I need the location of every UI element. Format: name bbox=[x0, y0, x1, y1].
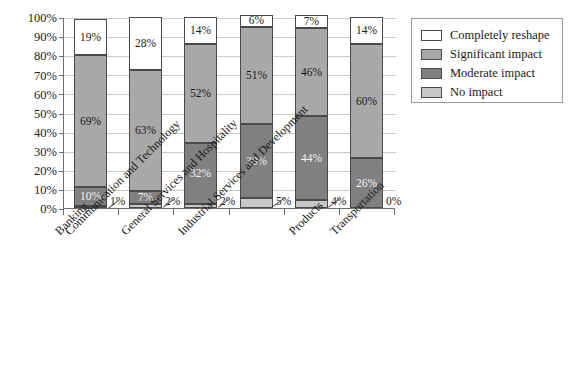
gridline bbox=[64, 18, 396, 19]
y-tick-label: 70% bbox=[3, 70, 57, 82]
segment-value: 44% bbox=[301, 153, 322, 164]
y-tick bbox=[59, 94, 64, 95]
segment-significant-impact: 60% bbox=[350, 44, 383, 159]
y-tick-label: 90% bbox=[3, 31, 57, 43]
y-tick-label: 0% bbox=[3, 203, 57, 215]
y-tick bbox=[59, 56, 64, 57]
legend-item-completely-reshape: Completely reshape bbox=[421, 26, 562, 45]
legend-swatch-icon bbox=[421, 87, 442, 98]
segment-value: 14% bbox=[190, 25, 211, 36]
y-tick bbox=[59, 114, 64, 115]
legend-swatch-icon bbox=[421, 49, 442, 60]
segment-completely-reshape: 14% bbox=[184, 17, 217, 44]
y-tick bbox=[59, 171, 64, 172]
segment-significant-impact: 69% bbox=[74, 55, 107, 187]
segment-value: 51% bbox=[246, 70, 267, 81]
legend-swatch-icon bbox=[421, 68, 442, 79]
legend-item-significant-impact: Significant impact bbox=[421, 45, 562, 64]
legend-label: Moderate impact bbox=[450, 66, 535, 81]
segment-completely-reshape: 19% bbox=[74, 19, 107, 55]
segment-completely-reshape: 28% bbox=[129, 17, 162, 70]
segment-value: 60% bbox=[356, 96, 377, 107]
y-tick-label: 60% bbox=[3, 89, 57, 101]
y-tick-label: 80% bbox=[3, 50, 57, 62]
gridline bbox=[64, 75, 396, 76]
gridline bbox=[64, 94, 396, 95]
segment-value: 46% bbox=[301, 67, 322, 78]
segment-value: 63% bbox=[135, 125, 156, 136]
segment-significant-impact: 51% bbox=[240, 27, 273, 124]
y-tick-label: 20% bbox=[3, 165, 57, 177]
chart-legend: Completely reshape Significant impact Mo… bbox=[411, 18, 563, 103]
y-tick-label: 10% bbox=[3, 184, 57, 196]
y-tick-label: 100% bbox=[3, 12, 57, 24]
gridline bbox=[64, 114, 396, 115]
segment-value: 14% bbox=[356, 25, 377, 36]
y-tick bbox=[59, 37, 64, 38]
segment-completely-reshape: 6% bbox=[240, 15, 273, 26]
gridline bbox=[64, 152, 396, 153]
x-tick bbox=[173, 209, 174, 215]
legend-label: No impact bbox=[450, 85, 502, 100]
segment-value: 6% bbox=[249, 15, 264, 26]
stacked-bar-chart: 100% 90% 80% 70% 60% 50% 40% 30% 20% 10%… bbox=[0, 0, 575, 392]
gridline bbox=[64, 56, 396, 57]
gridline bbox=[64, 37, 396, 38]
y-tick bbox=[59, 190, 64, 191]
legend-label: Significant impact bbox=[450, 47, 542, 62]
x-tick bbox=[284, 209, 285, 215]
y-tick bbox=[59, 152, 64, 153]
x-tick bbox=[63, 209, 64, 215]
segment-value: 19% bbox=[80, 32, 101, 43]
x-tick bbox=[118, 209, 119, 215]
y-tick bbox=[59, 133, 64, 134]
y-tick-label: 50% bbox=[3, 108, 57, 120]
y-tick-label: 40% bbox=[3, 127, 57, 139]
segment-significant-impact: 52% bbox=[184, 44, 217, 143]
segment-value: 28% bbox=[135, 38, 156, 49]
x-tick bbox=[394, 209, 395, 215]
callout-no-impact: 4% bbox=[331, 195, 346, 207]
legend-item-no-impact: No impact bbox=[421, 83, 562, 102]
legend-item-moderate-impact: Moderate impact bbox=[421, 64, 562, 83]
legend-label: Completely reshape bbox=[450, 28, 550, 43]
segment-value: 7% bbox=[304, 16, 319, 27]
y-tick bbox=[59, 75, 64, 76]
legend-swatch-icon bbox=[421, 30, 442, 41]
segment-no-impact bbox=[240, 198, 273, 208]
callout-no-impact: 0% bbox=[386, 195, 401, 207]
segment-completely-reshape: 14% bbox=[350, 17, 383, 44]
x-tick bbox=[229, 209, 230, 215]
segment-moderate-impact: 44% bbox=[295, 116, 328, 200]
y-tick-label: 30% bbox=[3, 146, 57, 158]
segment-value: 69% bbox=[80, 116, 101, 127]
segment-value: 52% bbox=[190, 88, 211, 99]
y-tick bbox=[59, 18, 64, 19]
segment-completely-reshape: 7% bbox=[295, 15, 328, 28]
